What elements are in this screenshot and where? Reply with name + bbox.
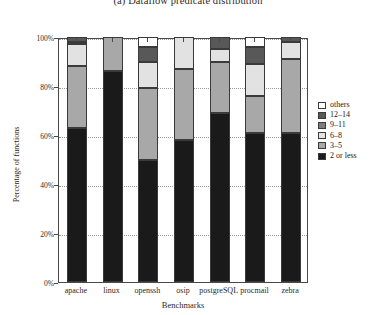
- x-tick-mark: [290, 38, 291, 42]
- y-tick-label: 80%: [14, 83, 54, 92]
- bar-segment[interactable]: [138, 37, 158, 47]
- x-tick-label: openssh: [134, 286, 160, 295]
- y-tick-mark: [54, 283, 58, 284]
- stacked-bar[interactable]: [174, 37, 194, 282]
- legend-item[interactable]: 2 or less: [318, 151, 376, 161]
- stacked-bar[interactable]: [103, 37, 123, 282]
- bar-segment[interactable]: [67, 128, 87, 282]
- bar-segment[interactable]: [210, 49, 230, 61]
- legend: others12–149–116–83–52 or less: [318, 100, 376, 161]
- bar-segment[interactable]: [245, 133, 265, 282]
- y-tick-label: 20%: [14, 230, 54, 239]
- bar-segment[interactable]: [103, 37, 123, 71]
- plot-area: [58, 38, 308, 283]
- bar-segment[interactable]: [245, 96, 265, 133]
- y-tick-label: 60%: [14, 132, 54, 141]
- x-tick-label: zebra: [281, 286, 298, 295]
- x-tick-mark: [254, 38, 255, 42]
- stacked-bar[interactable]: [281, 37, 301, 282]
- x-tick-label: linux: [103, 286, 119, 295]
- x-tick-label: osip: [176, 286, 189, 295]
- legend-label: others: [330, 101, 350, 109]
- x-tick-mark: [147, 38, 148, 42]
- bar-segment[interactable]: [67, 44, 87, 66]
- x-tick-label: procmail: [240, 286, 268, 295]
- x-tick-label: postgreSQL: [199, 286, 238, 295]
- legend-swatch-icon: [318, 142, 326, 149]
- x-tick-mark: [219, 38, 220, 42]
- y-tick-label: 0%: [14, 279, 54, 288]
- bar-segment[interactable]: [210, 113, 230, 282]
- y-axis-title: Percentage of functions: [12, 75, 21, 255]
- y-tick-label: 100%: [14, 34, 54, 43]
- bar-segment[interactable]: [67, 66, 87, 127]
- x-tick-mark: [112, 38, 113, 42]
- legend-swatch-icon: [318, 122, 326, 129]
- bar-segment[interactable]: [281, 42, 301, 59]
- bar-segment[interactable]: [245, 37, 265, 47]
- legend-item[interactable]: others: [318, 100, 376, 110]
- bar-segment[interactable]: [174, 140, 194, 282]
- legend-item[interactable]: 6–8: [318, 131, 376, 141]
- bar-segment[interactable]: [210, 37, 230, 49]
- legend-label: 3–5: [330, 142, 342, 150]
- legend-swatch-icon: [318, 102, 326, 109]
- legend-swatch-icon: [318, 132, 326, 139]
- x-tick-mark: [76, 38, 77, 42]
- legend-swatch-icon: [318, 153, 326, 160]
- bar-segment[interactable]: [281, 133, 301, 282]
- legend-label: 2 or less: [330, 152, 357, 160]
- bar-segment[interactable]: [67, 37, 87, 42]
- bar-segment[interactable]: [138, 62, 158, 89]
- stacked-bar[interactable]: [210, 37, 230, 282]
- bar-segment[interactable]: [103, 71, 123, 282]
- x-axis-title: Benchmarks: [58, 300, 308, 310]
- bar-segment[interactable]: [174, 37, 194, 69]
- bar-segment[interactable]: [245, 64, 265, 96]
- bar-segment[interactable]: [174, 69, 194, 140]
- stacked-bar[interactable]: [245, 37, 265, 282]
- y-tick-label: 40%: [14, 181, 54, 190]
- legend-label: 12–14: [330, 111, 350, 119]
- figure-caption: (a) Dataflow predicate distribution: [0, 0, 376, 6]
- legend-label: 6–8: [330, 132, 342, 140]
- stacked-bar[interactable]: [67, 37, 87, 282]
- bar-segment[interactable]: [138, 47, 158, 62]
- legend-item[interactable]: 3–5: [318, 141, 376, 151]
- bar-segment[interactable]: [210, 62, 230, 113]
- x-tick-mark: [183, 38, 184, 42]
- stacked-bar[interactable]: [138, 37, 158, 282]
- bar-segment[interactable]: [138, 88, 158, 159]
- legend-item[interactable]: 9–11: [318, 120, 376, 130]
- legend-swatch-icon: [318, 112, 326, 119]
- bar-segment[interactable]: [138, 160, 158, 283]
- bar-segment[interactable]: [281, 59, 301, 133]
- bar-segment[interactable]: [281, 37, 301, 42]
- bar-segment[interactable]: [67, 42, 87, 44]
- bar-segment[interactable]: [245, 47, 265, 64]
- legend-label: 9–11: [330, 121, 346, 129]
- x-tick-label: apache: [65, 286, 87, 295]
- legend-item[interactable]: 12–14: [318, 110, 376, 120]
